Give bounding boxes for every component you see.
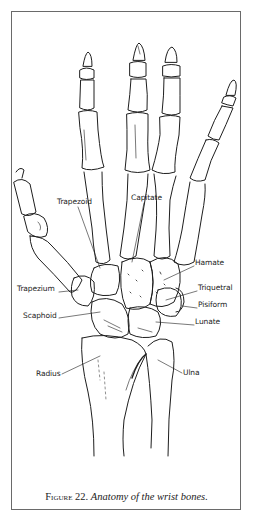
index-finger <box>79 52 104 170</box>
carpal-lunate <box>128 307 161 338</box>
little-finger <box>190 80 236 181</box>
figure-caption: Figure 22. Anatomy of the wrist bones. <box>0 491 253 502</box>
carpal-capitate <box>121 258 153 309</box>
carpal-hamate <box>150 257 180 306</box>
figure-number: Figure 22. <box>45 491 88 502</box>
ulna-bone <box>126 339 174 456</box>
label-hamate: Hamate <box>195 259 224 267</box>
metacarpals <box>84 172 205 265</box>
middle-finger <box>125 43 150 173</box>
label-pisiform: Pisiform <box>198 301 227 309</box>
carpal-scaphoid <box>91 298 129 338</box>
thumb <box>14 168 82 292</box>
label-scaphoid: Scaphoid <box>23 312 57 320</box>
radius-bone <box>82 335 146 456</box>
label-trapezoid: Trapezoid <box>57 198 92 206</box>
label-capitate: Capitate <box>131 194 162 202</box>
figure-title: Anatomy of the wrist bones. <box>91 491 208 502</box>
label-lunate: Lunate <box>195 318 220 326</box>
label-trapezium: Trapezium <box>17 285 55 293</box>
label-radius: Radius <box>36 370 61 378</box>
label-triquetral: Triquetral <box>198 284 232 292</box>
ring-finger <box>152 47 180 174</box>
label-ulna: Ulna <box>183 369 200 377</box>
